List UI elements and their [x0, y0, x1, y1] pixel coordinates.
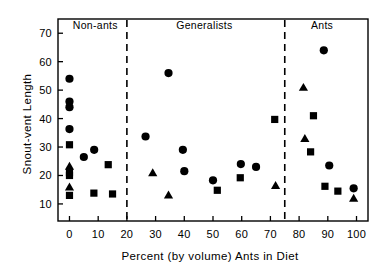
data-point-circle	[179, 146, 187, 154]
data-point-square	[237, 174, 244, 181]
x-axis-title: Percent (by volume) Ants in Diet	[50, 250, 370, 262]
data-point-circle	[350, 184, 358, 192]
data-point-triangle	[300, 134, 309, 142]
data-point-square	[334, 188, 341, 195]
data-point-circle	[80, 153, 88, 161]
data-point-square	[105, 161, 112, 168]
data-point-triangle	[148, 168, 157, 176]
data-point-square	[66, 192, 73, 199]
data-point-square	[109, 190, 116, 197]
x-tick-label: 10	[92, 228, 105, 240]
group-label: Ants	[311, 19, 333, 31]
x-tick-label: 90	[321, 228, 334, 240]
x-tick-label: 60	[235, 228, 248, 240]
x-tick-label: 30	[149, 228, 162, 240]
data-point-circle	[209, 176, 217, 184]
x-tick-label: 80	[293, 228, 306, 240]
data-point-triangle	[65, 162, 74, 170]
y-axis-title: Snout-vent Length	[21, 29, 33, 219]
scatter-plot-figure: 102030405060700102030405060708090100Non-…	[0, 0, 380, 276]
x-tick-label: 0	[66, 228, 72, 240]
data-point-triangle	[349, 194, 358, 202]
data-point-square	[66, 172, 73, 179]
x-tick-label: 20	[120, 228, 133, 240]
x-tick-label: 100	[347, 228, 366, 240]
data-point-square	[310, 112, 317, 119]
data-point-circle	[252, 163, 260, 171]
data-point-square	[271, 116, 278, 123]
data-point-triangle	[65, 182, 74, 190]
x-tick-label: 50	[207, 228, 220, 240]
data-point-square	[90, 190, 97, 197]
group-label: Non-ants	[73, 19, 118, 31]
data-point-square	[214, 187, 221, 194]
data-point-circle	[65, 75, 73, 83]
data-point-circle	[65, 125, 73, 133]
data-point-circle	[90, 146, 98, 154]
data-point-square	[66, 141, 73, 148]
data-point-circle	[237, 160, 245, 168]
group-label: Generalists	[176, 19, 232, 31]
data-point-triangle	[271, 181, 280, 189]
x-tick-label: 70	[264, 228, 277, 240]
data-point-circle	[164, 69, 172, 77]
data-point-circle	[180, 167, 188, 175]
data-point-circle	[141, 132, 149, 140]
data-point-circle	[325, 161, 333, 169]
data-point-triangle	[164, 190, 173, 198]
data-point-circle	[320, 46, 328, 54]
data-point-square	[307, 148, 314, 155]
data-point-circle	[65, 103, 73, 111]
x-tick-label: 40	[178, 228, 191, 240]
data-point-square	[321, 183, 328, 190]
data-point-triangle	[299, 83, 308, 91]
